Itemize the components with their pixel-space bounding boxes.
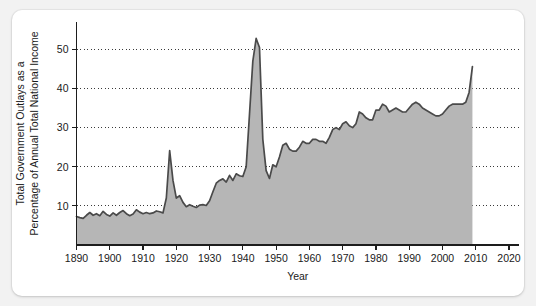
- y-tick-group: 1020304050: [57, 43, 77, 211]
- chart-svg: 1020304050 18901900191019201930194019501…: [0, 0, 536, 306]
- y-tick-label-20: 20: [57, 161, 69, 173]
- y-tick-label-50: 50: [57, 43, 69, 55]
- chart-figure: 1020304050 18901900191019201930194019501…: [0, 0, 536, 306]
- y-tick-label-30: 30: [57, 121, 69, 133]
- x-tick-label-1970: 1970: [331, 252, 355, 264]
- y-axis-title-line-2: Percentage of Annual Total National Inco…: [28, 31, 40, 235]
- x-tick-label-1920: 1920: [165, 252, 189, 264]
- page-root: 1020304050 18901900191019201930194019501…: [0, 0, 536, 306]
- x-tick-label-1940: 1940: [231, 252, 255, 264]
- x-tick-label-2010: 2010: [464, 252, 488, 264]
- x-axis-title: Year: [287, 270, 309, 282]
- x-tick-label-1980: 1980: [364, 252, 388, 264]
- x-tick-label-1930: 1930: [198, 252, 222, 264]
- series-area-fill: [77, 38, 473, 245]
- x-tick-label-1900: 1900: [98, 252, 122, 264]
- x-tick-label-2000: 2000: [431, 252, 455, 264]
- x-tick-label-2020: 2020: [497, 252, 521, 264]
- x-tick-label-1950: 1950: [264, 252, 288, 264]
- y-tick-label-10: 10: [57, 200, 69, 212]
- x-tick-label-1990: 1990: [398, 252, 422, 264]
- x-tick-group: 1890190019101920193019401950196019701980…: [65, 245, 521, 264]
- x-tick-label-1960: 1960: [298, 252, 322, 264]
- x-tick-label-1890: 1890: [65, 252, 89, 264]
- y-tick-label-40: 40: [57, 82, 69, 94]
- y-axis-title-line-1: Total Government Outlays as a: [14, 61, 26, 205]
- x-tick-label-1910: 1910: [131, 252, 155, 264]
